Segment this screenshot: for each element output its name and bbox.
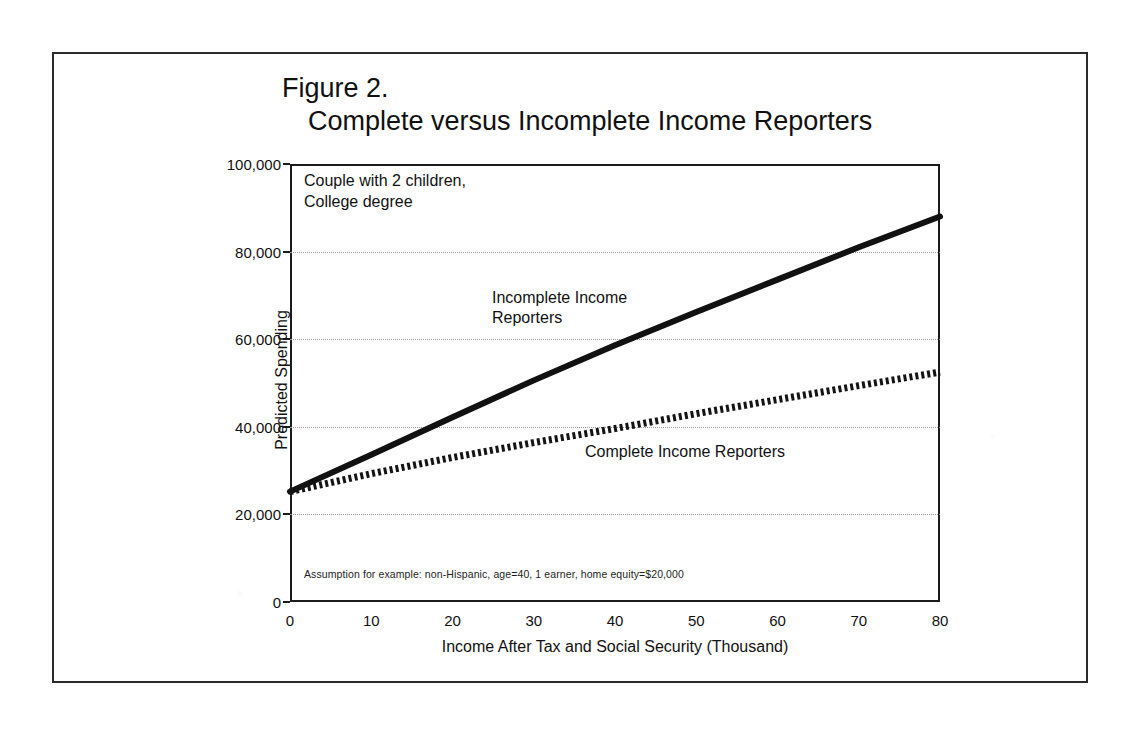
y-tick-mark-80000 [283,251,290,253]
x-tick-label-80: 80 [932,612,949,629]
x-tick-label-20: 20 [444,612,461,629]
figure-number: Figure 2. [282,72,1072,105]
y-axis-title: Predicted Spending [273,260,291,500]
x-tick-label-0: 0 [286,612,294,629]
series-line-complete [290,372,940,492]
figure-title-text: Complete versus Incomplete Income Report… [282,105,1072,138]
scenario-annotation: Couple with 2 children, College degree [304,170,466,212]
x-tick-label-30: 30 [525,612,542,629]
x-tick-label-50: 50 [688,612,705,629]
assumption-footnote: Assumption for example: non-Hispanic, ag… [304,568,684,580]
x-tick-label-70: 70 [850,612,867,629]
figure-frame: Figure 2. Complete versus Incomplete Inc… [52,52,1088,683]
y-tick-label-20000: 20,000 [235,506,281,523]
x-tick-label-60: 60 [769,612,786,629]
figure-title: Figure 2. Complete versus Incomplete Inc… [282,72,1072,138]
x-tick-label-10: 10 [363,612,380,629]
series-label-incomplete: Incomplete Income Reporters [492,288,627,328]
chart-plot-area: 100,000 80,000 60,000 40,000 20,000 0 Pr… [290,164,940,602]
y-tick-label-80000: 80,000 [235,243,281,260]
x-axis-title: Income After Tax and Social Security (Th… [290,638,940,656]
y-tick-label-100000: 100,000 [227,156,281,173]
y-tick-mark-20000 [283,513,290,515]
y-tick-mark-0 [283,601,290,603]
y-tick-label-0: 0 [273,594,281,611]
x-tick-label-40: 40 [607,612,624,629]
series-label-complete: Complete Income Reporters [585,442,785,462]
series-lines [290,164,940,602]
y-tick-mark-100000 [283,163,290,165]
